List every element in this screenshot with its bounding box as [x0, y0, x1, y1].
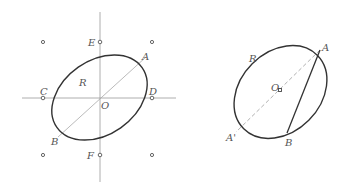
label-e: E	[87, 37, 96, 48]
point-e	[98, 40, 102, 44]
point-top-left	[41, 40, 44, 43]
label-b-right: B	[284, 137, 292, 148]
chord-ab	[287, 50, 320, 133]
label-r: R	[78, 77, 87, 88]
label-r-right: R	[248, 53, 257, 64]
label-a-right: A	[321, 42, 329, 53]
label-c: C	[40, 86, 48, 97]
label-b: B	[50, 136, 58, 147]
point-top-right	[150, 40, 153, 43]
right-figure: R A O A' B	[215, 27, 345, 157]
label-o-right: O	[271, 82, 279, 93]
point-f	[98, 153, 102, 157]
point-bottom-right	[150, 153, 153, 156]
label-a-prime: A'	[225, 132, 236, 143]
left-figure: E A R C D O B F	[22, 12, 176, 182]
label-d: D	[148, 86, 157, 97]
point-bottom-left	[41, 153, 44, 156]
label-f: F	[86, 150, 95, 161]
diameter-ab	[58, 57, 146, 137]
diagram-canvas: E A R C D O B F R A O A' B	[0, 0, 349, 194]
label-a: A	[141, 51, 149, 62]
label-o: O	[101, 100, 109, 111]
